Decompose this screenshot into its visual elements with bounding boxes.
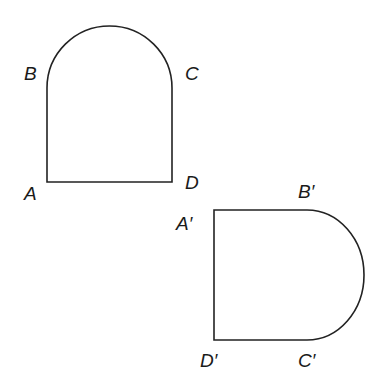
original-shape-abcd — [47, 26, 172, 182]
label-b-prime: B′ — [298, 181, 316, 202]
label-a: A — [23, 183, 37, 204]
label-d-prime: D′ — [200, 350, 219, 371]
diagram-canvas: B C A D B′ A′ D′ C′ — [0, 0, 373, 385]
image-shape-abcd-prime — [214, 210, 364, 340]
label-c: C — [185, 63, 199, 84]
label-b: B — [24, 63, 37, 84]
label-c-prime: C′ — [298, 350, 317, 371]
label-d: D — [185, 172, 199, 193]
label-a-prime: A′ — [175, 213, 194, 234]
